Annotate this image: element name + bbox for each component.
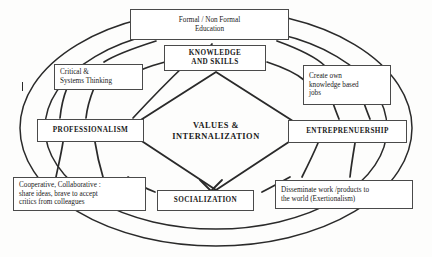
node-education[interactable]: Formal / Non Formal Education [130, 9, 289, 40]
node-socialization[interactable]: SOCIALIZATION [157, 190, 254, 211]
connector-createjobs-to-entrepreneurship [333, 103, 339, 119]
node-knowledge-and-skills-label: KNOWLEDGE AND SKILLS [165, 49, 265, 67]
node-cooperative-collaborative-label: Cooperative, Collaborative : share ideas… [14, 181, 145, 207]
node-entrepreneurship[interactable]: ENTREPRENUERSHIP [288, 120, 407, 143]
node-critical-systems-thinking[interactable]: Critical & Systems Thinking [54, 64, 143, 90]
node-disseminate-work-label: Disseminate work /products to the world … [276, 186, 412, 204]
connector-education-to-critical [104, 41, 156, 62]
node-critical-systems-thinking-label: Critical & Systems Thinking [55, 68, 142, 86]
node-professionalism-label: PROFESSIONALISM [38, 126, 143, 135]
connector-entrepreneurship-to-disseminate-2 [350, 143, 355, 177]
center-values-internalization-label: VALUES & INTERNALIZATION [172, 121, 259, 141]
diagram-canvas: Formal / Non Formal Education KNOWLEDGE … [0, 0, 432, 257]
connector-createjobs-to-entrepreneurship-2 [364, 103, 370, 119]
connector-entrepreneurship-to-disseminate [302, 143, 318, 177]
node-disseminate-work[interactable]: Disseminate work /products to the world … [275, 180, 413, 209]
connector-critical-to-professionalism [60, 88, 67, 118]
margin-tick-mark [22, 82, 23, 91]
node-create-own-jobs-label: Create own knowledge based jobs [304, 72, 390, 98]
connector-knowledge-to-critical [141, 62, 165, 70]
connector-education-to-createjobs [277, 41, 325, 66]
node-entrepreneurship-label: ENTREPRENUERSHIP [289, 127, 406, 136]
connector-critical-to-professionalism-2 [86, 88, 94, 118]
connector-knowledge-to-createjobs [267, 62, 304, 80]
node-socialization-label: SOCIALIZATION [158, 196, 253, 205]
center-values-internalization: VALUES & INTERNALIZATION [160, 110, 272, 143]
node-create-own-jobs[interactable]: Create own knowledge based jobs [303, 65, 391, 105]
node-professionalism[interactable]: PROFESSIONALISM [37, 119, 144, 142]
node-knowledge-and-skills[interactable]: KNOWLEDGE AND SKILLS [164, 45, 266, 71]
connector-professionalism-to-cooperative-2 [95, 142, 103, 177]
node-cooperative-collaborative[interactable]: Cooperative, Collaborative : share ideas… [13, 177, 146, 211]
node-education-label: Formal / Non Formal Education [131, 16, 288, 34]
